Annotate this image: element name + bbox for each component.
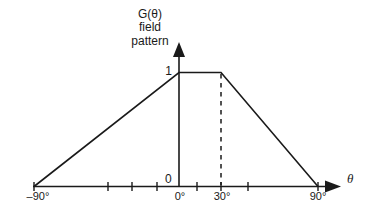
field-pattern-curve: [34, 73, 318, 187]
y-tick-label-one: 1: [160, 65, 172, 78]
field-pattern-chart: G(θ) field pattern 1 0 –90° 0° 30° 90° θ: [0, 0, 375, 216]
origin-label: 0: [165, 173, 172, 186]
y-axis-title-line-3: pattern: [108, 35, 192, 48]
x-axis-label-theta: θ: [347, 172, 353, 187]
y-axis-title-line-2: field: [108, 21, 192, 34]
x-tick-label-thirty: 30°: [207, 190, 237, 202]
x-tick-label-zero: 0°: [168, 190, 192, 202]
x-tick-label-ninety: 90°: [303, 190, 333, 202]
y-axis-title: G(θ) field pattern: [108, 8, 192, 48]
y-axis-title-line-1: G(θ): [108, 8, 192, 21]
x-tick-label-neg90: –90°: [21, 190, 55, 202]
